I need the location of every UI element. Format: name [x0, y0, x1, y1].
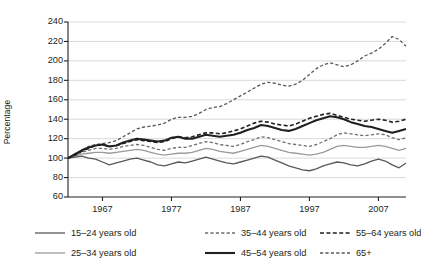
series-line	[68, 37, 406, 159]
x-tick-label: 2007	[358, 205, 398, 214]
legend-item[interactable]: 65+	[320, 244, 372, 262]
legend-label: 65+	[356, 248, 372, 258]
legend-line-icon	[320, 228, 350, 238]
legend-label: 45–54 years old	[241, 248, 306, 258]
legend-line-icon	[320, 248, 350, 258]
legend-item[interactable]: 15–24 years old	[35, 224, 136, 242]
legend-line-icon	[205, 248, 235, 258]
legend-label: 25–34 years old	[71, 248, 136, 258]
legend-item[interactable]: 25–34 years old	[35, 244, 136, 262]
chart-legend: 15–24 years old35–44 years old55–64 year…	[30, 222, 418, 268]
legend-label: 55–64 years old	[356, 228, 421, 238]
x-tick-label: 1997	[289, 205, 329, 214]
legend-line-icon	[35, 228, 65, 238]
legend-line-icon	[35, 248, 65, 258]
series-line	[68, 145, 406, 158]
legend-item[interactable]: 35–44 years old	[205, 224, 306, 242]
legend-item[interactable]: 45–54 years old	[205, 244, 306, 262]
legend-label: 15–24 years old	[71, 228, 136, 238]
x-tick-label: 1977	[151, 205, 191, 214]
x-tick-label: 1967	[82, 205, 122, 214]
x-tick-label: 1987	[220, 205, 260, 214]
legend-line-icon	[205, 228, 235, 238]
legend-item[interactable]: 55–64 years old	[320, 224, 421, 242]
legend-label: 35–44 years old	[241, 228, 306, 238]
